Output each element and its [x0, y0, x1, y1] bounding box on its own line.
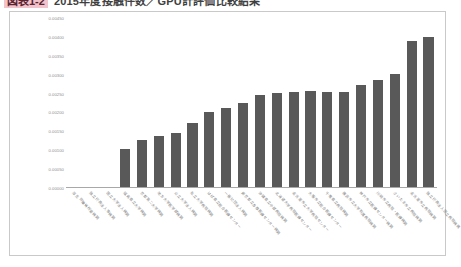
x-axis-line: [66, 187, 437, 188]
bar-slot: [83, 18, 100, 187]
y-axis: 0.000000.000500.001000.001500.002000.002…: [16, 12, 64, 255]
x-axis-label-slot: 一般社団法人機関: [218, 190, 235, 254]
x-axis-label-slot: 沖縄県立中部病院機関: [251, 190, 268, 254]
figure-title-strip: 図表1-22015年度接触件数／GPU計評価比較結果: [0, 0, 457, 9]
bar-series: [66, 18, 437, 187]
bar-slot: [285, 18, 302, 187]
bar-slot: [420, 18, 437, 187]
bar-chart: 0.000000.000500.001000.001500.002000.002…: [10, 12, 445, 255]
x-axis-tick-label: 独立行政法人国立病院機構: [426, 191, 461, 230]
plot-area: [66, 18, 437, 188]
bar[interactable]: [339, 92, 349, 187]
y-axis-tick-label: 0.00250: [18, 91, 64, 96]
bar-slot: [251, 18, 268, 187]
x-axis-label-slot: 公立大学法人機関: [167, 190, 184, 254]
y-axis-tick-label: 0.00000: [18, 186, 64, 191]
bar-slot: [218, 18, 235, 187]
x-axis-label-slot: 大阪市立総合医療センター: [302, 190, 319, 254]
bar-slot: [386, 18, 403, 187]
bar[interactable]: [255, 95, 265, 187]
x-axis-label-slot: 北海道大学病院医療センター: [268, 190, 285, 254]
bar[interactable]: [305, 91, 315, 187]
bar[interactable]: [390, 74, 400, 187]
bar[interactable]: [322, 92, 332, 187]
bar[interactable]: [289, 92, 299, 187]
figure-number-badge: 図表1-2: [4, 0, 48, 8]
bar[interactable]: [272, 93, 282, 187]
bar[interactable]: [171, 133, 181, 187]
bar-slot: [201, 18, 218, 187]
bar[interactable]: [238, 103, 248, 188]
bar[interactable]: [221, 108, 231, 187]
chart-card: 0.000000.000500.001000.001500.002000.002…: [9, 11, 446, 256]
x-axis-label-slot: 神戸市立医療センター機関: [353, 190, 370, 254]
x-axis-label-slot: 独立行政法人等機関: [83, 190, 100, 254]
x-axis-label-slot: 千葉県立病院機関: [319, 190, 336, 254]
bar[interactable]: [373, 80, 383, 187]
bar-slot: [167, 18, 184, 187]
bar[interactable]: [187, 123, 197, 187]
x-axis-label-slot: 京都第二大学機関: [133, 190, 150, 254]
bar-slot: [117, 18, 134, 187]
x-axis-label-slot: 東京都立多摩医療センター機関: [235, 190, 252, 254]
bar-slot: [336, 18, 353, 187]
y-axis-tick-label: 0.00050: [18, 167, 64, 172]
x-axis-labels: 厚生 労働省所管機関独立行政法人等機関国立大学法人機関福島県立大学機関京都第二大…: [66, 190, 437, 254]
bar[interactable]: [204, 112, 214, 187]
bar-slot: [353, 18, 370, 187]
bar-slot: [319, 18, 336, 187]
y-axis-tick-label: 0.00200: [18, 110, 64, 115]
x-axis-label-slot: はば県立総合医療センター: [201, 190, 218, 254]
figure-title: 図表1-22015年度接触件数／GPU計評価比較結果: [4, 0, 260, 8]
y-axis-tick-label: 0.00300: [18, 72, 64, 77]
x-axis-label-slot: 名古屋市立大学病院センター: [285, 190, 302, 254]
bar-slot: [235, 18, 252, 187]
y-axis-tick-label: 0.00450: [18, 16, 64, 21]
x-axis-label-slot: 名古屋市立病院機関: [403, 190, 420, 254]
figure-title-text: 2015年度接触件数／GPU計評価比較結果: [54, 0, 261, 8]
bar-slot: [66, 18, 83, 187]
bar[interactable]: [356, 85, 366, 187]
y-axis-tick-label: 0.00350: [18, 53, 64, 58]
x-axis-label-slot: 地方大学医学部機関: [150, 190, 167, 254]
bar[interactable]: [137, 140, 147, 187]
bar-slot: [302, 18, 319, 187]
x-axis-label-slot: 私立大学病院機関: [184, 190, 201, 254]
x-axis-label-slot: 福島県立大学機関: [117, 190, 134, 254]
x-axis-label-slot: 国立大学法人機関: [100, 190, 117, 254]
x-axis-label-slot: 横浜市立大学附属病院機関: [336, 190, 353, 254]
bar-slot: [369, 18, 386, 187]
bar-slot: [133, 18, 150, 187]
x-axis-label-slot: 厚生 労働省所管機関: [66, 190, 83, 254]
bar-slot: [150, 18, 167, 187]
x-axis-label-slot: 独立行政法人国立病院機構: [420, 190, 437, 254]
bar[interactable]: [407, 41, 417, 187]
y-axis-tick-label: 0.00100: [18, 148, 64, 153]
bar-slot: [100, 18, 117, 187]
x-axis-label-slot: 川崎市立病院・医療機関: [369, 190, 386, 254]
bar-slot: [268, 18, 285, 187]
bar[interactable]: [154, 136, 164, 187]
bar[interactable]: [120, 149, 130, 187]
bar[interactable]: [423, 37, 433, 187]
x-axis-label-slot: さいたま市立病院機関: [386, 190, 403, 254]
bar-slot: [184, 18, 201, 187]
y-axis-tick-label: 0.00150: [18, 129, 64, 134]
y-axis-tick-label: 0.00400: [18, 34, 64, 39]
bar-slot: [403, 18, 420, 187]
